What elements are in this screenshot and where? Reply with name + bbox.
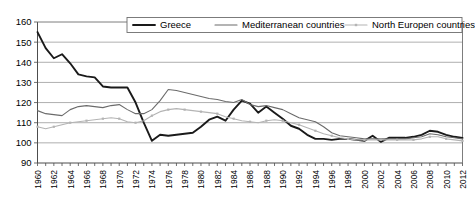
xtick-label-2006: 2006 [409,170,419,189]
series-marker [53,126,55,128]
xtick-label-1976: 1976 [164,170,174,189]
series-marker [85,120,87,122]
xtick-label-1978: 1978 [180,170,190,189]
chart-legend: GreeceMediterranean countriesNorth Europ… [127,18,475,33]
xtick-label-2008: 2008 [425,170,435,189]
xtick-label-1968: 1968 [98,170,108,189]
series-line-north-europen-countries [38,109,463,141]
ytick-label-90: 90 [21,157,32,168]
series-marker [134,122,136,124]
xtick-label-1986: 1986 [245,170,255,189]
xtick-label-1990: 1990 [278,170,288,189]
series-marker [380,139,382,141]
ytick-label-150: 150 [16,37,32,48]
xtick-label-1996: 1996 [327,170,337,189]
xtick-label-2004: 2004 [393,170,403,189]
series-marker [184,109,186,111]
series-marker [151,115,153,117]
ytick-label-160: 160 [16,16,32,27]
ytick-label-140: 140 [16,57,32,68]
series-marker [314,130,316,132]
ytick-label-100: 100 [16,137,32,148]
gridlines [38,22,463,143]
series-marker [216,113,218,115]
series-marker [118,118,120,120]
series-marker [282,120,284,122]
xtick-label-2002: 2002 [376,170,386,189]
xtick-label-1962: 1962 [49,170,59,189]
series-marker [200,111,202,113]
x-axis-tick-labels: 1960196219641966196819701972197419761978… [33,170,468,189]
xtick-label-1966: 1966 [82,170,92,189]
ytick-label-130: 130 [16,77,32,88]
legend-label-0: Greece [160,19,191,30]
series-marker [445,138,447,140]
chart-canvas: 90100110120130140150160 1960196219641966… [0,0,475,210]
series-marker [167,109,169,111]
series-marker [265,120,267,122]
ytick-label-110: 110 [16,117,31,128]
series-marker [363,139,365,141]
xtick-label-1964: 1964 [66,170,76,189]
xtick-label-1980: 1980 [196,170,206,189]
series-marker [102,118,104,120]
series-line-greece [38,32,463,142]
xtick-label-1994: 1994 [311,170,321,189]
legend-marker-2 [355,24,357,26]
xtick-label-1992: 1992 [294,170,304,189]
xtick-label-1970: 1970 [115,170,125,189]
xtick-label-2010: 2010 [442,170,452,189]
xtick-label-1984: 1984 [229,170,239,189]
series-marker [331,135,333,137]
xtick-label-1960: 1960 [33,170,43,189]
xtick-label-2000: 2000 [360,170,370,189]
series-marker [461,140,463,142]
series-marker [298,124,300,126]
xtick-label-2012: 2012 [458,170,468,189]
series-marker [396,139,398,141]
xtick-label-1972: 1972 [131,170,141,189]
series-marker [36,126,38,128]
y-axis-tick-labels: 90100110120130140150160 [16,16,32,168]
xtick-label-1988: 1988 [262,170,272,189]
xtick-label-1982: 1982 [213,170,223,189]
legend-label-1: Mediterranean countries [242,19,345,30]
series-marker [429,136,431,138]
xtick-label-1998: 1998 [343,170,353,189]
plot-frame [38,22,463,163]
xtick-label-1974: 1974 [147,170,157,189]
series-marker [233,118,235,120]
x-axis-tickmarks [34,22,463,166]
series-marker [249,121,251,123]
series-marker [412,139,414,141]
ytick-label-120: 120 [16,97,32,108]
data-series [36,32,463,142]
legend-label-2: North Europen countries [372,19,475,30]
series-marker [347,138,349,140]
series-marker [69,122,71,124]
series-line-mediterranean-countries [38,89,463,138]
line-chart: 90100110120130140150160 1960196219641966… [0,0,475,210]
